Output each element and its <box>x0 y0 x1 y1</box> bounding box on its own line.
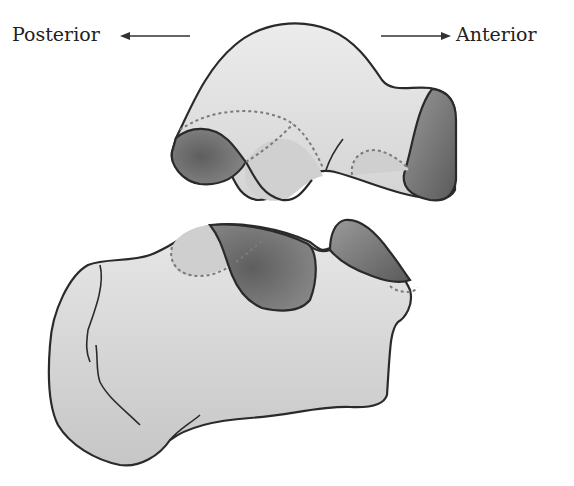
anterior-arrow <box>381 32 451 40</box>
talus-bone <box>172 23 456 200</box>
subtalar-joint-diagram <box>0 0 574 486</box>
calcaneus-bone <box>49 220 418 466</box>
posterior-arrow <box>120 32 190 40</box>
